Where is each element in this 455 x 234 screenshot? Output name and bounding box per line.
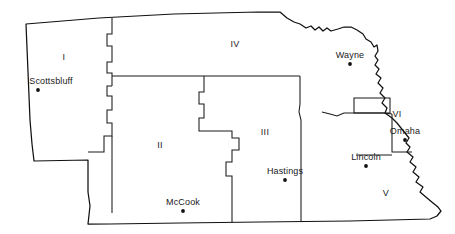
city-dot-mccook [181, 209, 185, 213]
state-outline-nebraska [26, 12, 441, 224]
city-dot-wayne [348, 62, 352, 66]
city-dot-scottsbluff [36, 88, 40, 92]
city-dot-omaha [403, 138, 407, 142]
city-dot-hastings [283, 178, 287, 182]
map-svg-canvas [0, 0, 455, 234]
city-dot-lincoln [364, 164, 368, 168]
nebraska-map: I II III IV V VI Scottsbluff Wayne Omaha… [0, 0, 455, 234]
